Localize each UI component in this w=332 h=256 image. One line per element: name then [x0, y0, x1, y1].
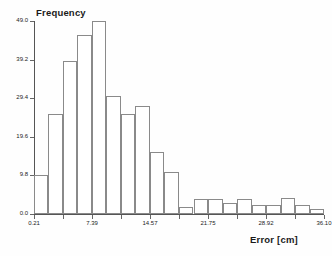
x-tick-label: 14.57	[136, 220, 164, 226]
x-tick-mark	[63, 215, 64, 219]
histogram-bar	[310, 209, 324, 214]
x-tick-mark	[295, 215, 296, 219]
x-tick-label: 0.21	[20, 220, 48, 226]
y-axis-title: Frequency	[36, 7, 86, 18]
x-tick-mark	[179, 215, 180, 219]
histogram-bar	[121, 114, 135, 214]
x-tick-mark	[324, 215, 325, 219]
histogram-bar	[237, 199, 251, 214]
histogram-bar	[223, 203, 238, 214]
x-axis-title: Error [cm]	[250, 234, 298, 245]
histogram-chart: Frequency Error [cm] 0.09.819.629.439.24…	[0, 0, 332, 256]
histogram-bar	[150, 152, 164, 214]
x-tick-label: 28.92	[252, 220, 280, 226]
x-tick-label: 21.75	[194, 220, 222, 226]
histogram-bar	[266, 205, 281, 214]
y-tick-label: 0.0	[4, 210, 28, 216]
histogram-bar	[179, 207, 193, 214]
x-tick-mark	[92, 215, 93, 219]
y-tick-mark	[30, 98, 34, 99]
histogram-bar	[63, 61, 77, 214]
y-tick-label: 39.2	[4, 56, 28, 62]
x-tick-label: 7.39	[78, 220, 106, 226]
y-tick-mark	[30, 137, 34, 138]
histogram-bar	[77, 35, 92, 214]
x-tick-mark	[208, 215, 209, 219]
x-tick-mark	[121, 215, 122, 219]
x-tick-mark	[34, 215, 35, 219]
y-tick-label: 29.4	[4, 94, 28, 100]
histogram-bar	[135, 106, 150, 214]
histogram-bar	[252, 205, 266, 214]
y-tick-mark	[30, 60, 34, 61]
histogram-bar	[208, 199, 222, 214]
histogram-bar	[34, 175, 48, 214]
y-tick-label: 49.0	[4, 17, 28, 23]
y-tick-label: 19.6	[4, 133, 28, 139]
y-tick-mark	[30, 21, 34, 22]
x-tick-mark	[237, 215, 238, 219]
x-tick-label: 36.10	[310, 220, 332, 226]
y-tick-label: 9.8	[4, 171, 28, 177]
histogram-bar	[106, 96, 121, 214]
histogram-bar	[48, 114, 63, 214]
histogram-bar	[281, 198, 295, 214]
histogram-bar	[92, 21, 106, 214]
x-tick-mark	[266, 215, 267, 219]
histogram-bar	[295, 205, 310, 214]
x-tick-mark	[150, 215, 151, 219]
histogram-bar	[164, 172, 179, 214]
histogram-bar	[194, 199, 209, 214]
